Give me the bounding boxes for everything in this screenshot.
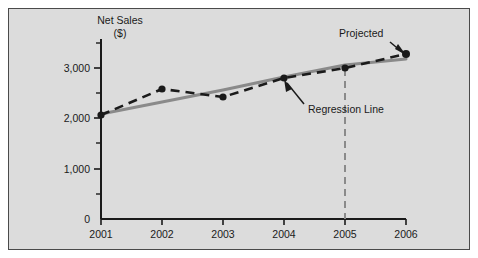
chart-title-line1: Net Sales (65, 14, 175, 26)
y-tick-label-0: 0 (35, 213, 90, 225)
annotation-projected: Projected (339, 27, 383, 39)
x-tick-label-2005: 2005 (325, 228, 365, 240)
data-point-2001 (97, 111, 104, 118)
data-point-2002 (158, 85, 165, 92)
data-point-2005 (341, 64, 348, 71)
x-tick-label-2006: 2006 (386, 228, 426, 240)
data-point-2003 (219, 93, 226, 100)
data-point-2004 (280, 74, 287, 81)
y-tick-label-1000: 1,000 (35, 163, 90, 175)
x-tick-label-2002: 2002 (142, 228, 182, 240)
chart-title-line2: ($) (65, 27, 175, 39)
regression-line-leader (284, 79, 304, 104)
x-tick-label-2004: 2004 (264, 228, 304, 240)
projected-leader (390, 42, 406, 55)
x-tick-label-2003: 2003 (203, 228, 243, 240)
annotation-regression-line: Regression Line (308, 103, 384, 115)
y-axis-major-ticks (94, 68, 101, 169)
y-tick-label-2000: 2,000 (35, 112, 90, 124)
x-tick-label-2001: 2001 (81, 228, 121, 240)
y-tick-label-3000: 3,000 (35, 62, 90, 74)
chart-figure: Net Sales ($) 3,000 2,000 1,000 0 2001 2… (8, 8, 470, 250)
